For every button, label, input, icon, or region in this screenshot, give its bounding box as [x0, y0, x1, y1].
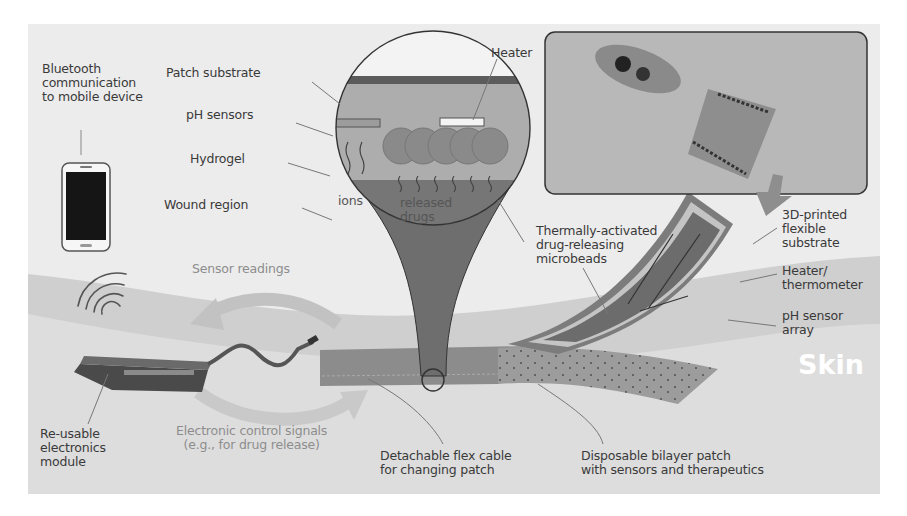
smartphone-icon [62, 163, 110, 251]
bluetooth-label: Bluetooth communication to mobile device [42, 62, 143, 104]
released-drugs-label: released drugs [400, 196, 452, 224]
flex-cable-label: Detachable flex cable for changing patch [380, 449, 512, 477]
ph-sensors-label: pH sensors [186, 108, 253, 122]
skin-label: Skin [798, 349, 864, 380]
diagram-artwork [28, 24, 880, 494]
sensor-readings-label: Sensor readings [192, 262, 290, 276]
control-signals-label: Electronic control signals (e.g., for dr… [176, 424, 327, 452]
device-photo-inset [545, 32, 867, 194]
heater-thermometer-label: Heater/ thermometer [782, 264, 863, 292]
bandage-patch [320, 192, 733, 404]
patch-substrate-label: Patch substrate [166, 66, 260, 80]
hydrogel-label: Hydrogel [190, 152, 245, 166]
bilayer-patch-label: Disposable bilayer patch with sensors an… [581, 449, 764, 477]
microbeads-label: Thermally-activated drug-releasing micro… [536, 224, 657, 266]
electronics-module-label: Re-usable electronics module [40, 427, 106, 469]
heater-label: Heater [491, 46, 532, 60]
figure-panel: Bluetooth communication to mobile device… [28, 24, 880, 494]
ph-sensor-array-label: pH sensor array [782, 309, 843, 337]
ions-label: ions [338, 194, 363, 208]
wound-region-label: Wound region [164, 198, 248, 212]
flexible-substrate-label: 3D-printed flexible substrate [782, 208, 847, 250]
